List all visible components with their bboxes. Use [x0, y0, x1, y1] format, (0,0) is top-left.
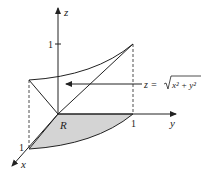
y-tick-label: 1: [131, 118, 136, 129]
cone-over-region-diagram: z 1 y 1 x 1 R z = x² + y²: [0, 0, 203, 178]
surface-equation-lhs: z =: [143, 79, 157, 90]
z-tick-label: 1: [48, 39, 53, 50]
cone-edge-x: [29, 80, 58, 114]
z-axis-label: z: [63, 6, 69, 18]
surface-equation: z = x² + y²: [143, 76, 201, 90]
cone-edge-y: [58, 44, 133, 114]
x-axis-label: x: [20, 158, 26, 170]
x-tick-label: 1: [19, 142, 24, 153]
region-label: R: [59, 119, 67, 131]
cone-top-curve: [29, 44, 133, 80]
surface-equation-radicand: x² + y²: [171, 80, 196, 90]
diagram-canvas: z 1 y 1 x 1 R z = x² + y²: [0, 0, 203, 178]
y-axis-label: y: [169, 117, 175, 129]
region-r: [29, 114, 133, 149]
